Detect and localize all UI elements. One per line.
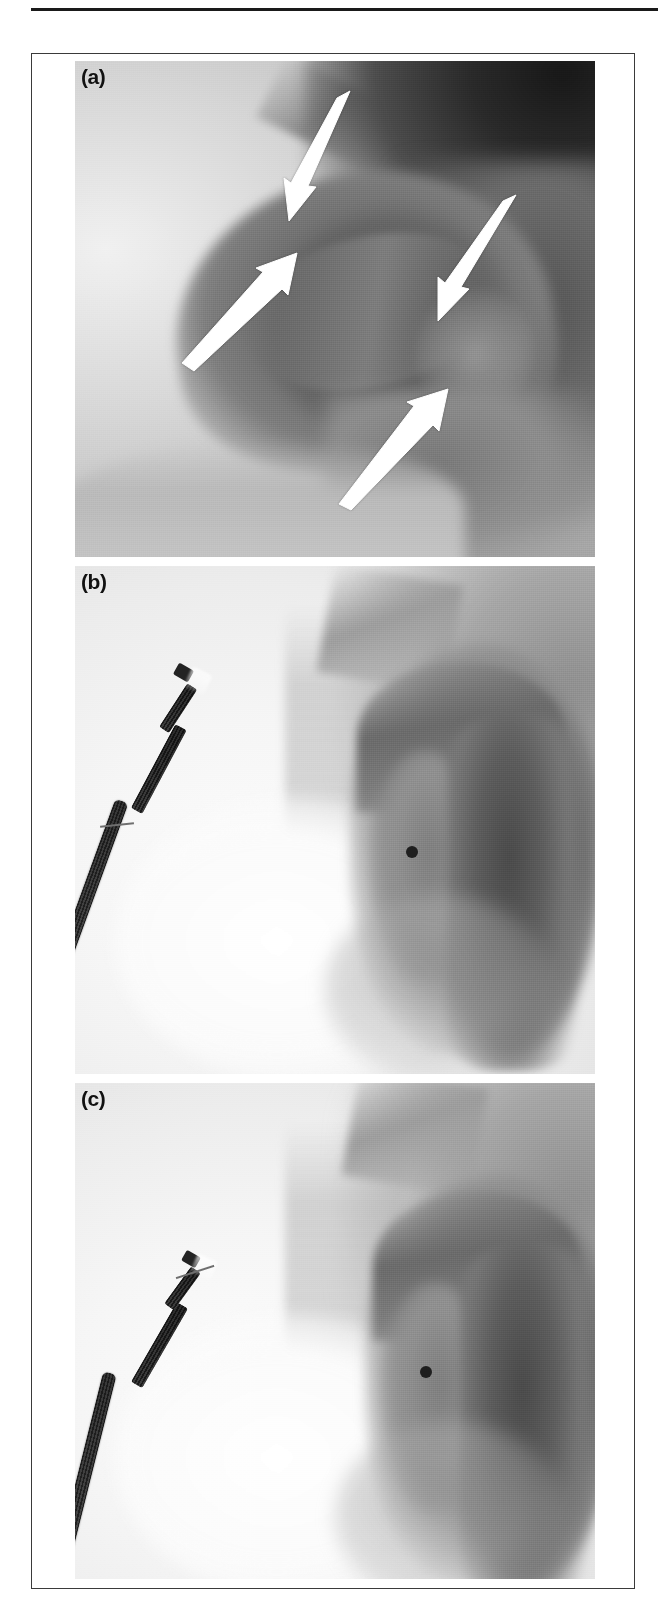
panel-c-probe-shaft <box>75 1371 117 1573</box>
panel-c-label: (c) <box>81 1087 105 1111</box>
panel-c-tee-probe <box>75 1083 595 1579</box>
panel-a-label: (a) <box>81 65 105 89</box>
arrow-up-right-lower <box>339 389 448 510</box>
arrow-down-right-mid <box>438 195 516 321</box>
panel-a-image <box>75 61 595 557</box>
arrow-up-right-left <box>182 253 297 371</box>
panel-b-tee-probe <box>75 566 595 1074</box>
panel-b-label: (b) <box>81 570 107 594</box>
arrow-down-left-upper <box>284 91 350 221</box>
panel-b: (b) <box>75 566 595 1074</box>
panel-c-probe-articulating-segment <box>131 1302 188 1388</box>
panel-b-image <box>75 566 595 1074</box>
panel-b-probe-shaft <box>75 799 129 992</box>
panel-b-probe-articulating-segment <box>131 724 187 814</box>
panel-c-image <box>75 1083 595 1579</box>
panel-a: (a) <box>75 61 595 557</box>
figure-frame: (a) <box>31 53 635 1589</box>
header-rule <box>31 8 658 11</box>
panel-a-arrow-group <box>75 61 595 557</box>
figure-page: (a) <box>0 0 664 1613</box>
panel-c: (c) <box>75 1083 595 1579</box>
